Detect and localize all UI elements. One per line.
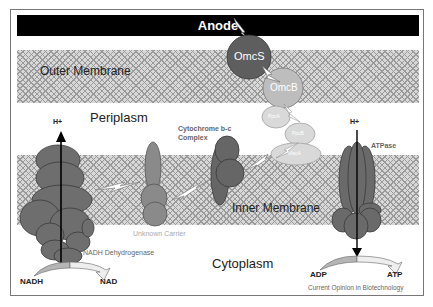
ppcb-label: PpcB [292, 130, 304, 136]
nadh-label: NADH [20, 277, 43, 286]
adp-label: ADP [310, 270, 327, 279]
cytochrome-bc-label-line1: Cytochrome b-c [178, 124, 231, 133]
nadh-dehydrogenase-label: NADH Dehydrogenase [83, 249, 154, 256]
cytoplasm-label: Cytoplasm [212, 256, 273, 271]
inner-membrane-label: Inner Membrane [232, 201, 320, 215]
h-plus-left-label: H+ [53, 118, 62, 125]
cytochrome-bc-complex [211, 136, 244, 205]
h-plus-right-label: H+ [350, 118, 359, 125]
atp-label: ATP [387, 270, 402, 279]
omcb-label: OmcB [270, 82, 298, 93]
maca-label: MacA [288, 150, 301, 156]
unknown-carrier [141, 142, 167, 226]
atpase-label: ATPase [371, 142, 396, 149]
cytochrome-bc-label-line2: Complex [178, 133, 231, 142]
nad-label: NAD [100, 277, 117, 286]
omcs-label: OmcS [234, 50, 265, 62]
ppca-label: PpcA [268, 113, 280, 119]
electron-transfer-bolt [95, 182, 140, 192]
electron-transfer-bolt [172, 178, 212, 200]
credit-label: Current Opinion in Biotechnology [308, 284, 403, 291]
unknown-carrier-label: Unknown Carrier [133, 230, 186, 237]
nadh-dehydrogenase-complex [20, 145, 94, 264]
nadh-to-nad-arrow [34, 262, 110, 280]
cytochrome-bc-label: Cytochrome b-c Complex [178, 124, 231, 142]
outer-membrane-label: Outer Membrane [40, 64, 131, 78]
periplasm-label: Periplasm [90, 110, 148, 125]
